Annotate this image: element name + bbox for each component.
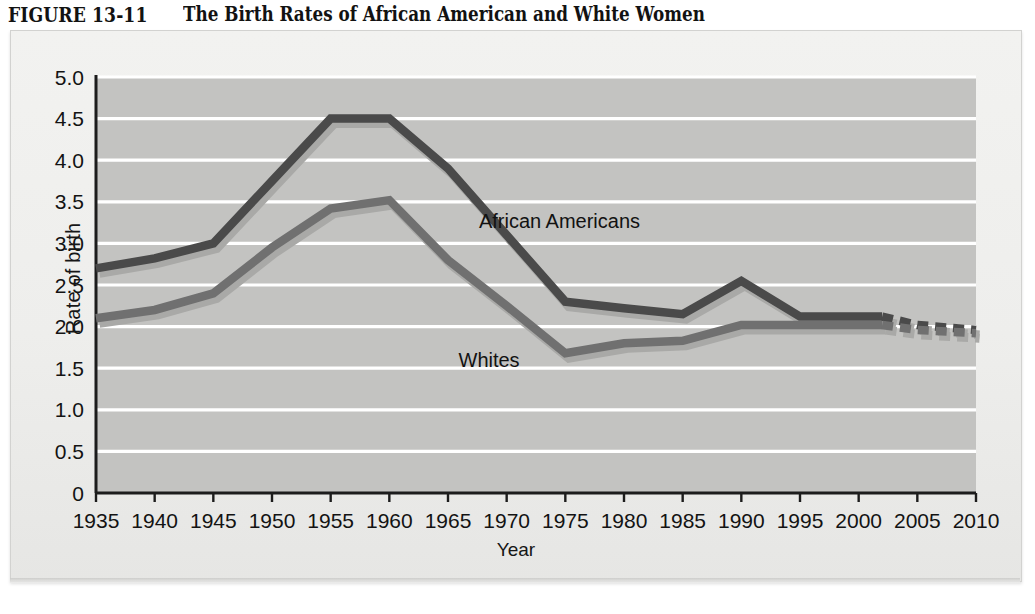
x-axis-tick-label: 1970: [483, 509, 530, 532]
figure-caption: FIGURE 13-11 The Birth Rates of African …: [8, 0, 804, 28]
y-axis-tick-label: 1.5: [55, 357, 84, 380]
birth-rate-line-chart: 00.51.01.52.02.53.03.54.04.55.0193519401…: [11, 31, 1021, 581]
chart-panel: 00.51.01.52.02.53.03.54.04.55.0193519401…: [10, 30, 1022, 582]
x-axis-tick-label: 1960: [366, 509, 413, 532]
x-axis-tick-label: 1945: [190, 509, 237, 532]
figure-number: FIGURE 13-11: [8, 2, 148, 27]
x-axis-tick-label: 1980: [601, 509, 648, 532]
x-axis-tick-label: 2005: [894, 509, 941, 532]
y-axis-tick-label: 1.0: [55, 398, 84, 421]
x-axis-title: Year: [11, 539, 1021, 561]
y-axis-tick-label: 0: [72, 482, 84, 505]
x-axis-tick-label: 1940: [131, 509, 178, 532]
x-axis-tick-label: 1995: [777, 509, 824, 532]
y-axis-title: Rate of birth: [62, 199, 85, 359]
x-axis-tick-label: 1990: [718, 509, 765, 532]
y-axis-tick-label: 4.5: [55, 107, 84, 130]
series-annotation-label: African Americans: [479, 210, 640, 232]
figure-container: FIGURE 13-11 The Birth Rates of African …: [0, 0, 1035, 614]
x-axis-tick-label: 1955: [307, 509, 354, 532]
x-axis-tick-label: 1975: [542, 509, 589, 532]
y-axis-tick-label: 5.0: [55, 66, 84, 89]
x-axis-tick-label: 1950: [249, 509, 296, 532]
x-axis-tick-label: 1965: [425, 509, 472, 532]
series-annotation-label: Whites: [459, 349, 520, 371]
y-axis-tick-label: 4.0: [55, 149, 84, 172]
panel-shadow: [10, 578, 1020, 583]
x-axis-tick-label: 2010: [953, 509, 1000, 532]
x-axis-tick-label: 1935: [73, 509, 120, 532]
x-axis-tick-label: 1985: [659, 509, 706, 532]
x-axis-tick-label: 2000: [835, 509, 882, 532]
y-axis-tick-label: 0.5: [55, 440, 84, 463]
figure-title: The Birth Rates of African American and …: [183, 2, 705, 26]
